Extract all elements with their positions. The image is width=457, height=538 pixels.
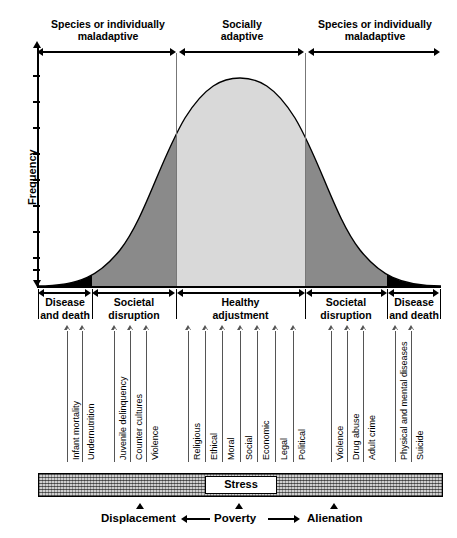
callout-line [363,331,364,462]
section-divider-left [176,53,177,286]
band-label-disease-right-line2: and death [389,309,439,321]
poverty-to-displacement-arrow [187,518,210,520]
callout-marker-triangle-inner [66,328,70,331]
callout-marker-triangle-inner [145,328,149,331]
callout-line [257,331,258,462]
callout-line [188,331,189,462]
callout-line [205,331,206,462]
callout-label-left-2: Juvenile delinquency [118,376,128,460]
callout-marker-triangle-inner [129,328,133,331]
displacement-label: Displacement [101,512,176,524]
band-label-healthy-line1: Healthy [222,296,260,308]
poverty-to-alienation-arrowhead [294,515,300,523]
callout-line [347,331,348,462]
callout-marker-triangle-inner [274,328,278,331]
band-label-societal-left-line1: Societal [114,296,154,308]
alienation-marker-triangle [330,503,338,509]
band-label-disease-left: Disease and death [38,296,92,321]
stress-label-box: Stress [205,476,277,494]
curve-band-black-left [38,70,92,290]
stress-label: Stress [224,478,258,490]
band-label-disease-right: Disease and death [385,296,443,321]
bell-curve-chart [0,0,457,300]
section-divider-right [305,53,306,286]
callout-marker-triangle-inner [81,328,85,331]
callout-marker-triangle-inner [394,328,398,331]
band-label-disease-right-line1: Disease [394,296,434,308]
callout-label-right-1: Drug abuse [351,413,361,460]
callout-label-center-6: Political [297,429,307,460]
callout-label-center-3: Social [244,435,254,460]
band-label-societal-right: Societal disruption [305,296,387,321]
poverty-marker-triangle [235,503,243,509]
callout-label-right-2: Adult crime [367,415,377,460]
band-label-societal-left-line2: disruption [108,309,159,321]
band-label-disease-left-line1: Disease [45,296,85,308]
band-arrow-1 [41,292,88,294]
band-arrow-2 [95,292,172,294]
callout-marker-triangle-inner [239,328,243,331]
callout-marker-triangle-inner [221,328,225,331]
callout-marker-triangle-inner [362,328,366,331]
callout-label-left-0: Infant mortality [71,401,81,460]
callout-line [82,331,83,462]
band-label-healthy: Healthy adjustment [176,296,305,321]
callout-label-left-4: Violence [150,426,160,460]
callout-line [146,331,147,462]
callout-marker-triangle-inner [410,328,414,331]
callout-line [222,331,223,462]
callout-label-center-5: Legal [279,438,289,460]
callout-marker-triangle-inner [330,328,334,331]
callout-line [293,331,294,462]
callout-marker-triangle-inner [113,328,117,331]
callout-label-left-3: Counter cultures [134,394,144,460]
band-label-disease-left-line2: and death [40,309,90,321]
poverty-to-alienation-arrow [268,518,295,520]
callout-line [411,331,412,462]
band-label-societal-right-line1: Societal [326,296,366,308]
poverty-to-displacement-arrowhead [181,515,187,523]
callout-line [114,331,115,462]
displacement-marker-triangle [136,503,144,509]
x-axis-line [37,286,441,288]
callout-marker-triangle-inner [187,328,191,331]
callout-marker-triangle-inner [292,328,296,331]
curve-band-black-right [387,70,441,290]
callout-line [331,331,332,462]
callout-label-right-4: Suicide [415,430,425,460]
callout-label-right-3: Physical and mental diseases [399,341,409,460]
callout-label-right-0: Violence [335,426,345,460]
curve-band-dark-right [305,70,387,290]
callout-line [275,331,276,462]
callout-label-left-1: Undernutrition [86,403,96,460]
band-label-societal-left: Societal disruption [92,296,176,321]
band-label-societal-right-line2: disruption [320,309,371,321]
band-label-healthy-line2: adjustment [212,309,268,321]
poverty-label: Poverty [214,512,256,524]
callout-label-center-0: Religious [192,423,202,460]
callout-label-center-2: Moral [226,437,236,460]
curve-band-dark-left [92,70,176,290]
band-arrow-4 [309,292,384,294]
alienation-label: Alienation [307,512,363,524]
callout-marker-triangle-inner [204,328,208,331]
callout-line [395,331,396,462]
callout-line [67,331,68,462]
callout-label-center-4: Economic [261,420,271,460]
callout-marker-triangle-inner [346,328,350,331]
callout-label-center-1: Ethical [209,433,219,460]
band-arrow-5 [391,292,437,294]
callout-marker-triangle-inner [256,328,260,331]
band-arrow-3 [180,292,302,294]
figure-root: Species or individually maladaptive Soci… [0,0,457,538]
callout-line [130,331,131,462]
callout-line [240,331,241,462]
